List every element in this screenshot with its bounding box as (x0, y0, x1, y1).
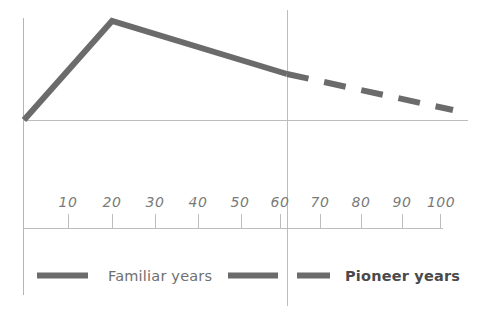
tick-label-10: 10 (59, 194, 78, 210)
tick-label-90: 90 (393, 194, 412, 210)
tick-label-50: 50 (231, 194, 250, 210)
legend-label-familiar-years: Familiar years (108, 268, 212, 284)
line-chart: 10 20 30 40 50 60 70 80 90 100 Familiar … (0, 0, 478, 316)
tick-label-80: 80 (352, 194, 371, 210)
tick-label-60: 60 (271, 194, 290, 210)
tick-label-30: 30 (146, 194, 165, 210)
legend-label-pioneer-years: Pioneer years (345, 268, 460, 284)
tick-label-40: 40 (189, 194, 208, 210)
tick-label-20: 20 (103, 194, 122, 210)
tick-label-100: 100 (427, 194, 455, 210)
chart-container: 10 20 30 40 50 60 70 80 90 100 Familiar … (0, 0, 478, 316)
tick-label-70: 70 (311, 194, 330, 210)
